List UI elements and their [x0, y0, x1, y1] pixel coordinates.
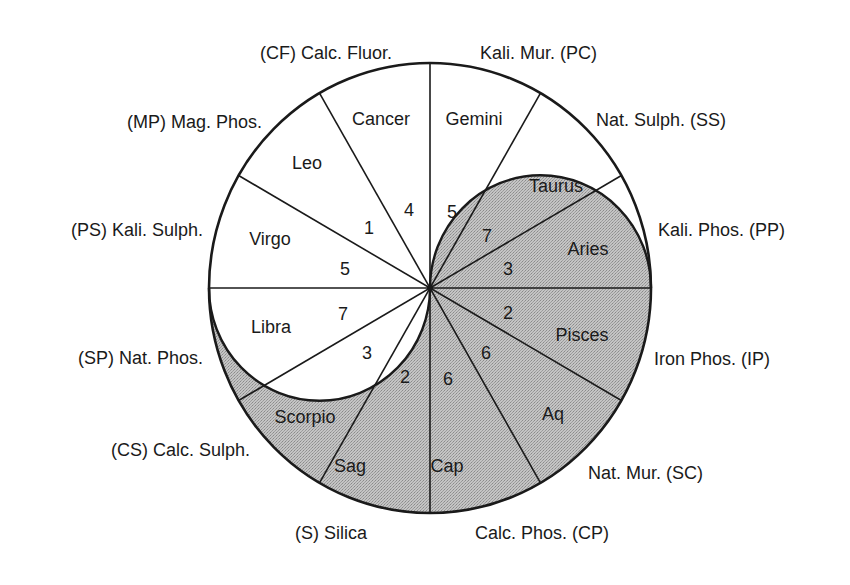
- number-label-pisces: 2: [503, 303, 513, 323]
- salt-label-scorpio: (CS) Calc. Sulph.: [111, 440, 250, 460]
- number-label-virgo: 5: [340, 259, 350, 279]
- number-label-aq: 6: [481, 343, 491, 363]
- number-label-aries: 3: [503, 259, 513, 279]
- number-label-cap: 6: [443, 369, 453, 389]
- sign-label-scorpio: Scorpio: [274, 407, 335, 427]
- salt-label-cancer: (CF) Calc. Fluor.: [260, 43, 392, 63]
- sign-label-gemini: Gemini: [445, 109, 502, 129]
- sign-label-aries: Aries: [567, 239, 608, 259]
- sign-label-aq: Aq: [542, 404, 564, 424]
- number-label-libra: 7: [338, 304, 348, 324]
- salt-label-sag: (S) Silica: [295, 523, 368, 543]
- salt-label-taurus: Nat. Sulph. (SS): [596, 110, 726, 130]
- center-point: [427, 285, 433, 291]
- number-label-cancer: 4: [404, 200, 414, 220]
- sign-label-sag: Sag: [334, 456, 366, 476]
- zodiac-wheel-diagram: Aries Taurus Gemini Cancer Leo Virgo Lib…: [0, 0, 850, 585]
- number-label-scorpio: 3: [362, 343, 372, 363]
- sign-label-cancer: Cancer: [352, 109, 410, 129]
- number-label-sag: 2: [400, 367, 410, 387]
- salt-label-leo: (MP) Mag. Phos.: [127, 112, 262, 132]
- salt-label-cap: Calc. Phos. (CP): [475, 523, 609, 543]
- salt-label-pisces: Iron Phos. (IP): [654, 349, 770, 369]
- sign-label-taurus: Taurus: [529, 176, 583, 196]
- salt-label-aq: Nat. Mur. (SC): [588, 463, 703, 483]
- sign-label-virgo: Virgo: [249, 229, 291, 249]
- salt-label-gemini: Kali. Mur. (PC): [480, 43, 597, 63]
- number-label-taurus: 7: [482, 226, 492, 246]
- sign-label-cap: Cap: [430, 456, 463, 476]
- sign-label-leo: Leo: [292, 153, 322, 173]
- salt-label-virgo: (PS) Kali. Sulph.: [71, 220, 203, 240]
- salt-label-aries: Kali. Phos. (PP): [658, 220, 785, 240]
- number-label-leo: 1: [364, 218, 374, 238]
- salt-label-libra: (SP) Nat. Phos.: [78, 348, 203, 368]
- number-label-gemini: 5: [447, 202, 457, 222]
- sign-label-pisces: Pisces: [555, 325, 608, 345]
- sign-label-libra: Libra: [251, 317, 292, 337]
